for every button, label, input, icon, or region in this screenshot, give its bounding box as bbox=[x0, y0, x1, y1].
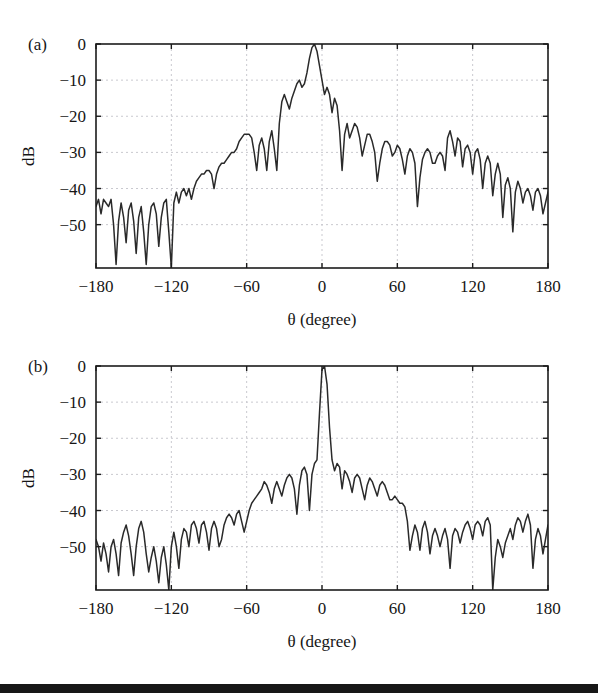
x-tick-label: 120 bbox=[460, 599, 486, 618]
y-tick-label: −40 bbox=[59, 180, 86, 199]
y-tick-label: −10 bbox=[59, 71, 86, 90]
panel-label-a: (a) bbox=[28, 35, 47, 54]
footer-bar bbox=[0, 684, 598, 693]
x-axis-title: θ (degree) bbox=[287, 632, 356, 651]
y-tick-label: −10 bbox=[59, 393, 86, 412]
x-tick-label: 0 bbox=[318, 277, 327, 296]
y-tick-label: −30 bbox=[59, 143, 86, 162]
chart-panel-a: −180−120−600601201800−10−20−30−40−50θ (d… bbox=[0, 0, 598, 346]
y-tick-label: 0 bbox=[78, 357, 87, 376]
x-tick-label: 120 bbox=[460, 277, 486, 296]
chart-panel-b: −180−120−600601201800−10−20−30−40−50θ (d… bbox=[0, 322, 598, 668]
x-tick-label: −180 bbox=[78, 277, 113, 296]
y-axis-title: dB bbox=[19, 146, 38, 166]
x-tick-label: −60 bbox=[233, 599, 260, 618]
x-tick-label: 60 bbox=[389, 277, 406, 296]
x-tick-label: −180 bbox=[78, 599, 113, 618]
x-tick-label: −120 bbox=[154, 277, 189, 296]
chart-svg-b: −180−120−600601201800−10−20−30−40−50θ (d… bbox=[0, 322, 598, 668]
x-tick-label: 180 bbox=[535, 277, 561, 296]
panel-b-content: −180−120−600601201800−10−20−30−40−50θ (d… bbox=[19, 357, 561, 651]
x-tick-label: 60 bbox=[389, 599, 406, 618]
y-axis-title: dB bbox=[19, 468, 38, 488]
y-tick-label: −20 bbox=[59, 429, 86, 448]
y-tick-label: −50 bbox=[59, 538, 86, 557]
panel-label-b: (b) bbox=[28, 357, 48, 376]
x-tick-label: 180 bbox=[535, 599, 561, 618]
y-tick-label: −20 bbox=[59, 107, 86, 126]
x-tick-label: −60 bbox=[233, 277, 260, 296]
y-tick-label: −50 bbox=[59, 216, 86, 235]
x-tick-label: 0 bbox=[318, 599, 327, 618]
x-tick-label: −120 bbox=[154, 599, 189, 618]
y-tick-label: −30 bbox=[59, 465, 86, 484]
figure-container: −180−120−600601201800−10−20−30−40−50θ (d… bbox=[0, 0, 598, 693]
y-tick-label: −40 bbox=[59, 502, 86, 521]
panel-a-content: −180−120−600601201800−10−20−30−40−50θ (d… bbox=[19, 35, 561, 329]
y-tick-label: 0 bbox=[78, 35, 87, 54]
chart-svg-a: −180−120−600601201800−10−20−30−40−50θ (d… bbox=[0, 0, 598, 346]
